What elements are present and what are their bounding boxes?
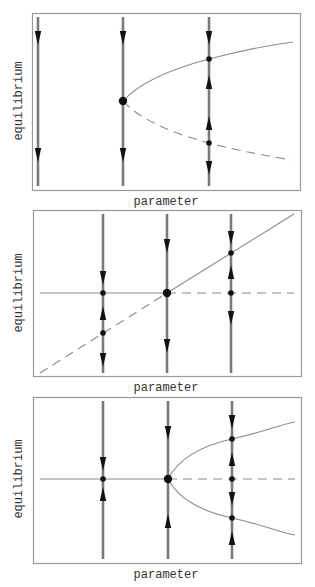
arrow-down-icon bbox=[100, 353, 106, 367]
arrow-down-icon bbox=[206, 31, 212, 45]
arrow-down-icon bbox=[100, 457, 106, 471]
x-axis-label: parameter bbox=[134, 568, 199, 582]
arrow-up-icon bbox=[206, 75, 212, 89]
equilibrium-point bbox=[228, 290, 234, 296]
phase-line bbox=[119, 17, 127, 186]
arrow-up-icon bbox=[100, 306, 106, 320]
arrow-down-icon bbox=[164, 339, 170, 353]
arrow-down-icon bbox=[120, 31, 126, 45]
arrow-down-icon bbox=[228, 311, 234, 325]
panel-transcritical: parameterequilibrium bbox=[12, 211, 302, 396]
arrow-down-icon bbox=[165, 426, 171, 440]
x-axis-label: parameter bbox=[134, 195, 199, 209]
arrow-down-icon bbox=[206, 161, 212, 175]
bifurcation-figure: parameterequilibriumparameterequilibrium… bbox=[0, 0, 315, 587]
arrow-down-icon bbox=[35, 31, 41, 45]
equilibrium-point bbox=[228, 250, 234, 256]
equilibrium-point bbox=[100, 476, 106, 482]
arrow-down-icon bbox=[100, 271, 106, 285]
arrow-up-icon bbox=[228, 265, 234, 279]
y-axis-label: equilibrium bbox=[12, 439, 26, 518]
bifurcation-point bbox=[164, 475, 172, 483]
plot-frame bbox=[33, 14, 301, 191]
arrow-down-icon bbox=[228, 231, 234, 245]
arrow-up-icon bbox=[165, 514, 171, 528]
x-axis-label: parameter bbox=[134, 381, 199, 395]
y-axis-label: equilibrium bbox=[12, 61, 26, 140]
arrow-down-icon bbox=[35, 148, 41, 162]
arrow-down-icon bbox=[164, 239, 170, 253]
panel-pitchfork: parameterequilibrium bbox=[12, 398, 302, 583]
arrow-up-icon bbox=[229, 452, 235, 466]
arrow-down-icon bbox=[120, 148, 126, 162]
equilibrium-point bbox=[100, 290, 106, 296]
panels: parameterequilibriumparameterequilibrium… bbox=[12, 14, 302, 583]
phase-line bbox=[229, 401, 235, 559]
equilibrium-point bbox=[229, 476, 235, 482]
arrow-up-icon bbox=[229, 531, 235, 545]
phase-line bbox=[35, 17, 41, 186]
phase-line bbox=[163, 214, 171, 373]
equilibrium-point bbox=[229, 436, 235, 442]
equilibrium-point bbox=[206, 56, 212, 62]
equilibrium-point bbox=[206, 140, 212, 146]
arrow-down-icon bbox=[229, 415, 235, 429]
unstable-branch bbox=[123, 101, 291, 160]
phase-line bbox=[164, 401, 172, 559]
arrow-down-icon bbox=[229, 492, 235, 506]
equilibrium-point bbox=[100, 330, 106, 336]
panel-saddle-node: parameterequilibrium bbox=[12, 14, 301, 210]
bifurcation-point bbox=[119, 97, 127, 105]
phase-line bbox=[100, 401, 106, 559]
arrow-up-icon bbox=[206, 116, 212, 130]
arrow-up-icon bbox=[100, 487, 106, 501]
y-axis-label: equilibrium bbox=[12, 253, 26, 332]
phase-line bbox=[100, 214, 106, 373]
equilibrium-point bbox=[229, 515, 235, 521]
phase-line bbox=[228, 214, 234, 373]
phase-line bbox=[206, 17, 212, 186]
bifurcation-point bbox=[163, 289, 171, 297]
